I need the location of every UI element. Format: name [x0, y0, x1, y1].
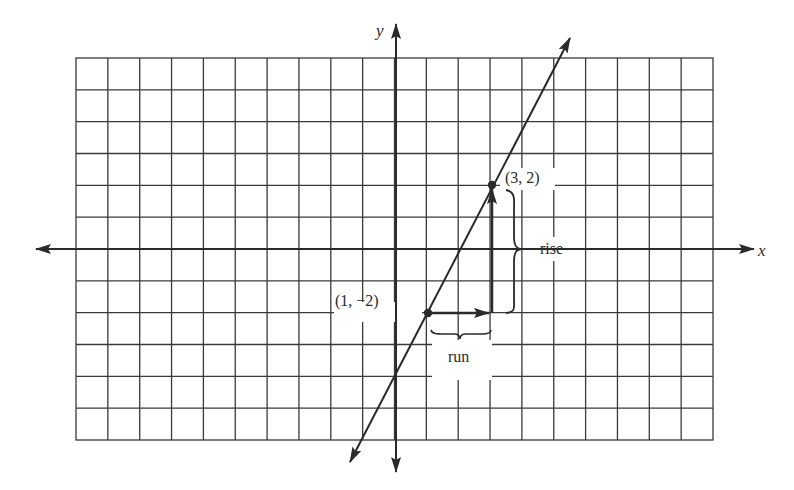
run-label: run — [448, 348, 469, 365]
point-label-1-neg2: (1, −2) — [335, 292, 379, 310]
rise-brace — [506, 190, 522, 313]
point-label-3-2: (3, 2) — [505, 169, 540, 187]
slope-diagram: x y (1, −2) (3, 2) rise run — [0, 0, 794, 490]
rise-label: rise — [540, 240, 563, 257]
x-axis-label: x — [757, 241, 766, 260]
point-1-neg2 — [424, 309, 432, 317]
run-brace — [431, 330, 491, 339]
point-3-2 — [488, 181, 496, 189]
y-axis-label: y — [374, 21, 384, 40]
